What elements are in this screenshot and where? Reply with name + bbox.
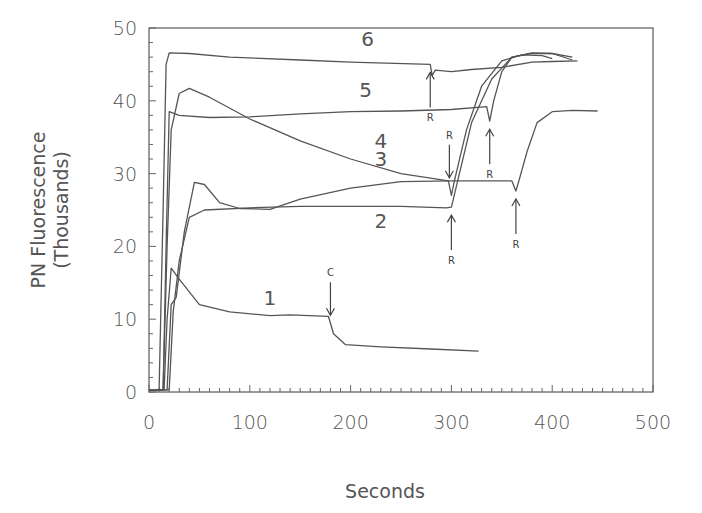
- x-tick-label: 500: [635, 411, 671, 433]
- x-tick-label: 100: [232, 411, 268, 433]
- curve-label: 6: [361, 27, 374, 51]
- y-tick-labels: 01020304050: [113, 17, 137, 403]
- curve-4: [149, 55, 552, 390]
- y-tick-label: 50: [113, 17, 137, 39]
- annotation-arrow-r: R: [486, 129, 494, 180]
- curve-1: [149, 268, 479, 390]
- curve-label: 2: [374, 209, 387, 233]
- annotation-arrow-c: C: [326, 267, 334, 315]
- curve-labels: 123456: [264, 27, 388, 309]
- y-tick-label: 20: [113, 235, 137, 257]
- svg-text:R: R: [486, 169, 493, 180]
- annotation-arrow-r: R: [445, 130, 453, 178]
- x-tick-label: 400: [534, 411, 570, 433]
- plot-frame: [149, 28, 653, 392]
- y-axis-title: PN Fluorescence: [27, 132, 49, 289]
- x-tick-label: 200: [332, 411, 368, 433]
- curves: [149, 53, 598, 390]
- svg-text:C: C: [327, 267, 334, 278]
- axis-ticks: [149, 28, 653, 392]
- svg-text:R: R: [448, 255, 455, 266]
- curve-label: 4: [374, 129, 387, 153]
- svg-text:R: R: [512, 239, 519, 250]
- annotation-arrow-r: R: [512, 199, 520, 250]
- annotation-arrow-r: R: [426, 72, 434, 123]
- svg-text:R: R: [446, 130, 453, 141]
- curve-label: 1: [264, 286, 277, 310]
- y-tick-label: 10: [113, 308, 137, 330]
- x-tick-label: 300: [433, 411, 469, 433]
- curve-label: 5: [359, 78, 372, 102]
- annotation-arrow-r: R: [447, 215, 455, 266]
- y-tick-label: 30: [113, 163, 137, 185]
- x-tick-labels: 0100200300400500: [143, 411, 671, 433]
- fluorescence-chart: CRRRRR 123456 0100200300400500 010203040…: [0, 0, 702, 513]
- y-axis-subtitle: (Thousands): [50, 151, 72, 269]
- curve-6: [149, 53, 577, 390]
- curve-5: [149, 54, 572, 390]
- x-tick-label: 0: [143, 411, 155, 433]
- curve-3: [149, 110, 598, 390]
- y-tick-label: 40: [113, 90, 137, 112]
- x-axis-title: Seconds: [345, 480, 425, 502]
- annotations: CRRRRR: [326, 72, 519, 315]
- curve-2: [149, 53, 572, 390]
- y-tick-label: 0: [125, 381, 137, 403]
- svg-text:R: R: [427, 112, 434, 123]
